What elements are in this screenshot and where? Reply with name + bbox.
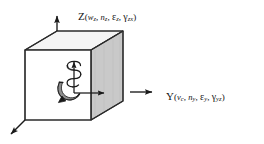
x-axis-line [11,120,25,134]
y-label-base: Y [166,90,174,102]
z-label-close-paren: ) [133,12,136,22]
z-axis-label: Z(wz, nz, εz, γzx) [78,7,136,23]
coordinate-cube-figure: Z(wz, nz, εz, γzx) Y(vc, ny, εy, γyz) [0,0,264,144]
y-axis-label: Y(vc, ny, εy, γyz) [166,87,225,103]
x-axis [11,120,25,134]
y-label-close-paren: ) [222,92,225,102]
z-label-base: Z [78,10,85,22]
